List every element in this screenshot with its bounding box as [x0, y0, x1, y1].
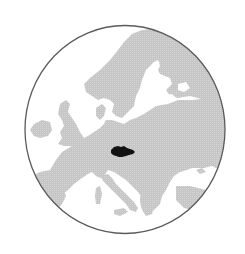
europe-globe-map: [0, 0, 245, 254]
locator-map: [0, 0, 245, 254]
